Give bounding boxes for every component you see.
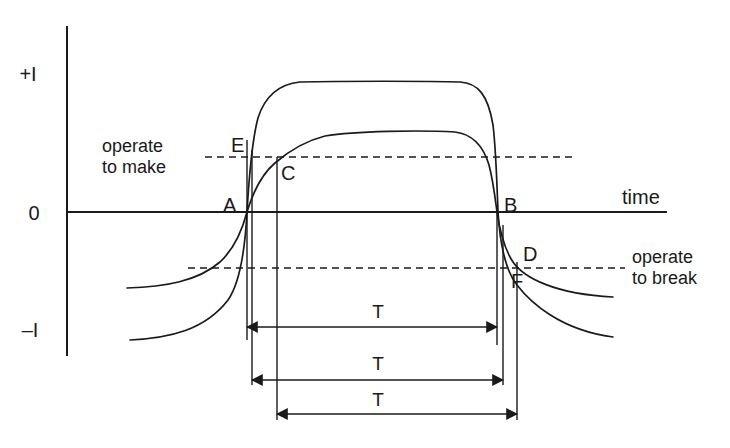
point-label-D: D bbox=[523, 243, 537, 265]
point-label-C: C bbox=[281, 162, 295, 184]
dimension-label-T-lower: T bbox=[372, 389, 384, 410]
point-label-B: B bbox=[504, 194, 517, 216]
operate-to-make-label-line1: operate bbox=[102, 136, 163, 156]
point-label-A: A bbox=[223, 194, 237, 216]
timing-diagram: +I 0 –I time operate to make operate to … bbox=[0, 0, 730, 448]
y-axis-label-positive: +I bbox=[19, 63, 36, 85]
point-label-E: E bbox=[231, 134, 244, 156]
curve-slow-rise bbox=[127, 131, 613, 297]
timing-diagram-svg: +I 0 –I time operate to make operate to … bbox=[0, 0, 730, 448]
operate-to-break-label-line2: to break bbox=[632, 268, 698, 288]
point-label-F: F bbox=[511, 270, 523, 292]
operate-to-break-label-line1: operate bbox=[632, 247, 693, 267]
y-axis-label-zero: 0 bbox=[28, 202, 39, 224]
dimension-label-T-upper: T bbox=[372, 301, 384, 322]
dimension-label-T-middle: T bbox=[372, 353, 384, 374]
x-axis-label-time: time bbox=[622, 186, 660, 208]
y-axis-label-negative: –I bbox=[22, 319, 39, 341]
operate-to-make-label-line2: to make bbox=[102, 157, 166, 177]
